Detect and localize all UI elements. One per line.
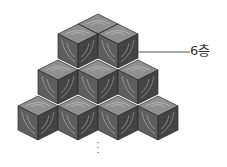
cube-bottom-4 [138, 96, 178, 140]
cube-bottom-1 [18, 96, 58, 140]
continuation-dots: ··· [96, 141, 100, 156]
cube-pyramid-diagram: 6층 ··· [0, 0, 227, 167]
cube-bottom-2 [58, 96, 98, 140]
cube-middle-3 [118, 60, 158, 104]
cube-middle-2 [78, 60, 118, 104]
layer-label: 6층 [190, 43, 210, 59]
cube-middle-1 [38, 60, 78, 104]
cube-bottom-3 [98, 96, 138, 140]
cube-pyramid-graphic [0, 0, 227, 167]
